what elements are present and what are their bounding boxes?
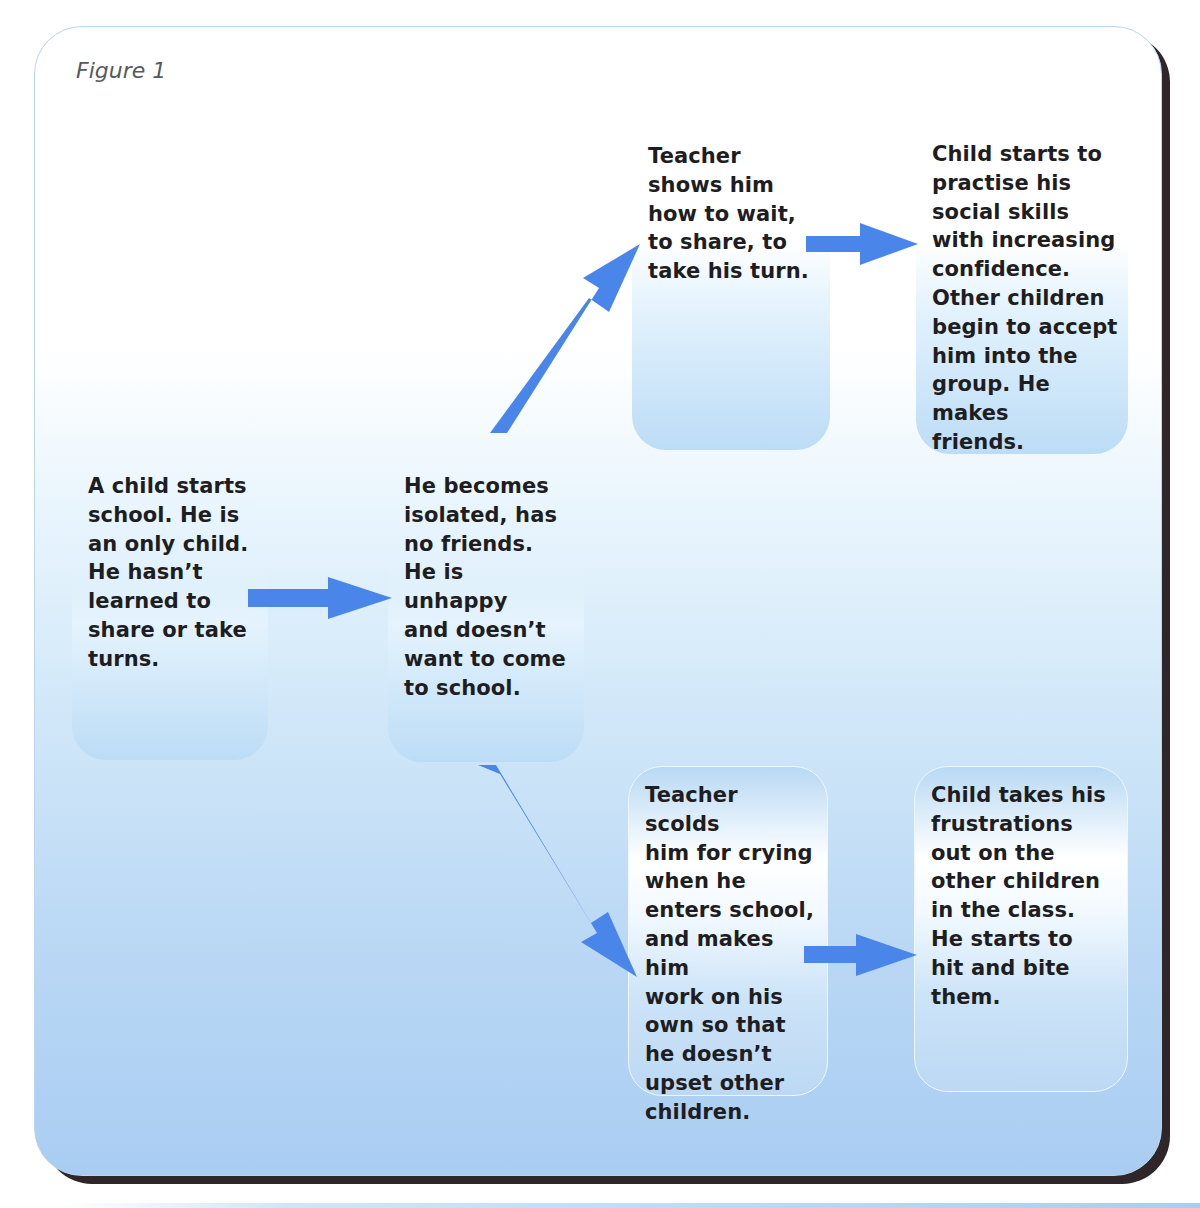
arrow-right-icon (806, 223, 918, 265)
arrows-layer (0, 0, 1200, 1208)
arrow-up-right-icon (476, 244, 640, 433)
arrow-down-right-icon (478, 765, 637, 977)
arrow-right-icon (248, 577, 392, 619)
arrow-right-icon (804, 934, 917, 976)
